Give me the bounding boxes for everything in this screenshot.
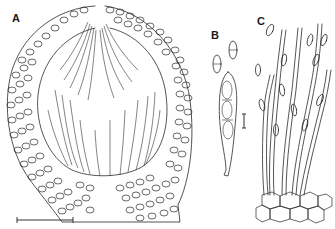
scientific-figure: A B C (0, 0, 335, 229)
illustration (0, 0, 335, 229)
paraphyses (48, 22, 160, 176)
basal-cells (256, 192, 332, 223)
ascus-drawing (213, 41, 246, 176)
conidiophores-drawing (256, 23, 333, 223)
perithecium-drawing (7, 6, 192, 223)
wall-cells (7, 7, 192, 221)
